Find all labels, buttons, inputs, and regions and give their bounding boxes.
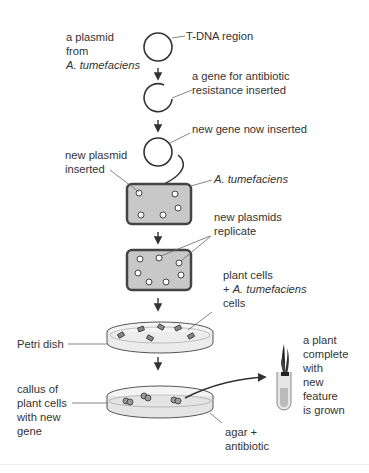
label-line: + A. tumefaciens	[223, 282, 307, 296]
bottom-divider	[0, 464, 369, 465]
label-line: plant cells	[223, 268, 307, 282]
label-line: agar +	[225, 425, 269, 439]
callus-dish-icon	[72, 377, 265, 423]
label-antibiotic-gene: a gene for antibiotic resistance inserte…	[192, 69, 290, 97]
label-callus: callus of plant cells with new gene	[17, 382, 67, 438]
label-line: new plasmids	[214, 210, 282, 224]
label-prefix: +	[223, 283, 233, 295]
plasmid-circle-icon	[144, 33, 185, 61]
bacterium-cell-icon	[110, 170, 212, 224]
label-plasmid-from: a plasmid from A. tumefaciens	[66, 30, 140, 72]
label-line: is grown	[303, 403, 348, 417]
label-line: from	[66, 44, 140, 58]
bacterium-replicating-cell-icon	[127, 236, 211, 290]
label-line: callus of	[17, 382, 67, 396]
label-line: feature	[303, 389, 348, 403]
label-line: cells	[223, 296, 307, 310]
label-line: new plasmid	[65, 148, 127, 162]
label-line: plant cells	[17, 396, 67, 410]
label-line: a plant	[303, 333, 348, 347]
label-petri-dish: Petri dish	[17, 337, 64, 351]
label-plasmids-replicate: new plasmids replicate	[214, 210, 282, 238]
label-line: a gene for antibiotic	[192, 69, 290, 83]
label-new-gene: new gene now inserted	[192, 122, 307, 136]
label-tdna-region: T-DNA region	[186, 29, 253, 43]
diagram-canvas: a plasmid from A. tumefaciens T-DNA regi…	[0, 0, 369, 473]
test-tube-plant-icon	[277, 344, 291, 410]
label-italic: A. tumefaciens	[233, 283, 307, 295]
label-a-tumefaciens: A. tumefaciens	[214, 172, 288, 186]
cut-plasmid-icon	[144, 84, 192, 112]
label-line: inserted	[65, 162, 127, 176]
label-line: with new	[17, 410, 67, 424]
label-line: new	[303, 375, 348, 389]
label-line: replicate	[214, 224, 282, 238]
label-line: resistance inserted	[192, 83, 290, 97]
label-agar-antibiotic: agar + antibiotic	[225, 425, 269, 453]
label-line: a plasmid	[66, 30, 140, 44]
label-line: antibiotic	[225, 439, 269, 453]
label-line: gene	[17, 424, 67, 438]
label-line: with	[303, 361, 348, 375]
label-line: complete	[303, 347, 348, 361]
petri-dish-icon	[68, 312, 213, 353]
label-line: A. tumefaciens	[66, 58, 140, 72]
label-new-plasmid: new plasmid inserted	[65, 148, 127, 176]
recombinant-plasmid-icon	[144, 133, 190, 191]
label-plant-cells: plant cells + A. tumefaciens cells	[223, 268, 307, 310]
label-plant-grown: a plant complete with new feature is gro…	[303, 333, 348, 417]
